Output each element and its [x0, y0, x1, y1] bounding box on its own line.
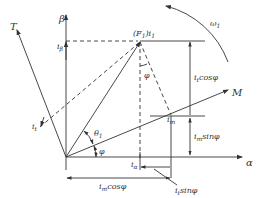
omega-label: ω1	[210, 19, 220, 29]
im-cos-label: imcosφ	[99, 182, 127, 192]
m-axis-label: M	[231, 87, 243, 98]
phi-top-arc	[140, 64, 147, 66]
resultant-vector	[66, 42, 140, 157]
alpha-axis-label: α	[246, 157, 253, 168]
i-t-projection	[40, 42, 140, 127]
beta-axis-label: β	[58, 13, 65, 24]
im-sin-label: imsinφ	[194, 132, 220, 142]
theta-label: θ1	[94, 129, 103, 139]
resultant-label: (F1)i1	[133, 29, 155, 39]
phi-label: φ	[99, 147, 105, 156]
phi-arc	[94, 146, 96, 157]
it-sin-label: itsinφ	[175, 186, 198, 196]
it-cos-label: itcosφ	[194, 73, 218, 83]
diagram-svg: β α T M iβ it im iα (F1)i1 θ1 φ φ ω1 itc…	[0, 0, 257, 198]
i-alpha-label: iα	[131, 160, 138, 170]
it-sin-leader	[154, 169, 177, 185]
omega-rotation-arc	[166, 6, 228, 62]
theta-arc	[84, 131, 93, 144]
m-axis	[66, 90, 228, 157]
vector-diagram: β α T M iβ it im iα (F1)i1 θ1 φ φ ω1 itc…	[0, 0, 257, 198]
phi-top-label: φ	[144, 71, 150, 80]
i-t-label: it	[32, 122, 38, 132]
i-beta-label: iβ	[57, 42, 64, 53]
